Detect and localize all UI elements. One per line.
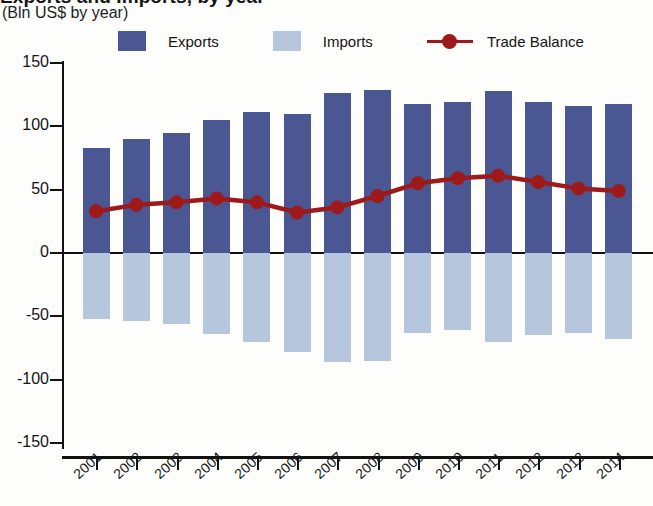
trade-balance-point [371,189,385,203]
y-tick--100 [50,379,62,381]
trade-balance-point [612,184,626,198]
y-tick-label: -150 [0,433,49,451]
trade-balance-point [250,195,264,209]
y-tick-label: -100 [0,370,49,388]
trade-balance-point [89,204,103,218]
trade-balance-point [210,192,224,206]
y-tick-label: 100 [0,116,49,134]
trade-balance-line-icon [427,31,473,51]
exports-swatch-icon [118,31,146,51]
chart-legend: Exports Imports Trade Balance [118,30,584,52]
trade-balance-point [330,200,344,214]
y-tick--50 [50,315,62,317]
y-tick-label: 50 [0,180,49,198]
x-tick-label: 2014 [593,448,628,482]
x-tick-label: 2010 [432,448,467,482]
imports-swatch-icon [273,31,301,51]
x-tick-label: 2011 [472,449,506,482]
y-tick-100 [50,125,62,127]
x-tick-label: 2005 [231,448,266,482]
trade-balance-point [491,169,505,183]
x-tick-label: 2003 [151,448,186,482]
chart-container: Exports and Imports, by year (Bln US$ by… [0,0,653,506]
trade-balance-series [62,55,653,450]
y-tick-label: -50 [0,306,49,324]
plot-area: 150100500-50-100-150 [62,55,653,450]
x-tick-label: 2006 [271,448,306,482]
y-tick--150 [50,442,62,444]
trade-balance-point [170,195,184,209]
x-tick-label: 2004 [191,448,226,482]
x-tick-label: 2008 [352,448,387,482]
trade-balance-point [572,181,586,195]
x-tick-label: 2001 [70,448,105,482]
trade-balance-point [129,198,143,212]
x-tick-label: 2007 [311,448,346,482]
trade-balance-point [411,176,425,190]
y-tick-50 [50,189,62,191]
trade-balance-point [531,175,545,189]
y-tick-150 [50,62,62,64]
legend-label-trade-balance: Trade Balance [487,33,584,50]
trade-balance-point [290,205,304,219]
x-tick-label: 2002 [110,448,145,482]
chart-subtitle: (Bln US$ by year) [2,4,128,22]
trade-balance-point [451,171,465,185]
legend-item-imports: Imports [273,31,373,51]
x-tick-label: 2009 [392,448,427,482]
legend-label-imports: Imports [323,33,373,50]
y-tick-0 [50,252,62,254]
legend-item-exports: Exports [118,31,219,51]
x-tick-label: 2013 [553,448,588,482]
y-tick-label: 0 [0,243,49,261]
x-tick-label: 2012 [512,448,547,482]
y-tick-label: 150 [0,53,49,71]
legend-item-trade-balance: Trade Balance [427,31,584,51]
legend-label-exports: Exports [168,33,219,50]
